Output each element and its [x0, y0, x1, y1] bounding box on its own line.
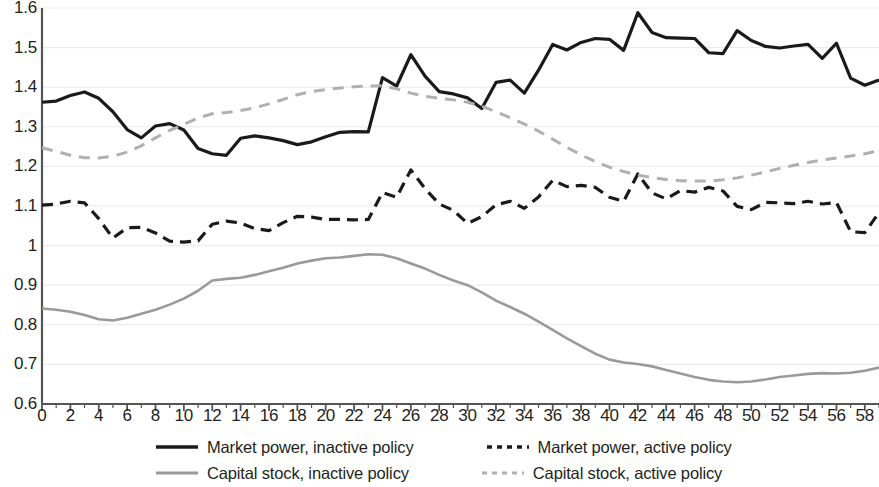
x-tick-label: 34 [511, 406, 537, 426]
y-tick-label: 0.7 [3, 355, 37, 372]
x-axis-tick-labels: 0246810121416182022242628303234363840424… [0, 406, 879, 430]
x-tick-label: 36 [540, 406, 566, 426]
legend-item-market-power-active: Market power, active policy [486, 434, 732, 460]
x-tick-label: 10 [171, 406, 197, 426]
x-tick-label: 48 [710, 406, 736, 426]
legend-item-capital-stock-inactive: Capital stock, inactive policy [155, 460, 409, 486]
x-tick-label: 22 [341, 406, 367, 426]
legend-row-1: Market power, inactive policy Market pow… [0, 434, 879, 460]
x-tick-label: 40 [596, 406, 622, 426]
legend-label: Capital stock, inactive policy [207, 464, 409, 483]
series-line-0 [42, 13, 879, 156]
y-tick-label: 0.9 [3, 276, 37, 293]
y-tick-label: 1 [3, 237, 37, 254]
x-tick-label: 2 [57, 406, 83, 426]
x-tick-label: 46 [682, 406, 708, 426]
dashed-grey-line-swatch [481, 466, 525, 480]
x-tick-label: 58 [852, 406, 878, 426]
y-axis-tick-labels: 1.61.51.41.31.21.110.90.80.70.6 [0, 0, 37, 425]
legend-row-2: Capital stock, inactive policy Capital s… [0, 460, 879, 486]
x-tick-label: 16 [256, 406, 282, 426]
series-line-2 [42, 254, 879, 382]
y-tick-label: 1.1 [3, 197, 37, 214]
x-tick-label: 30 [455, 406, 481, 426]
x-tick-label: 54 [795, 406, 821, 426]
y-tick-label: 1.3 [3, 118, 37, 135]
legend-label: Market power, inactive policy [207, 438, 414, 457]
chart-canvas [0, 0, 879, 425]
solid-black-line-swatch [155, 440, 199, 454]
y-tick-label: 1.2 [3, 157, 37, 174]
x-tick-label: 12 [199, 406, 225, 426]
solid-grey-line-swatch [155, 466, 199, 480]
legend-label: Market power, active policy [538, 438, 732, 457]
x-tick-label: 28 [426, 406, 452, 426]
x-tick-label: 4 [86, 406, 112, 426]
x-tick-label: 56 [823, 406, 849, 426]
x-tick-label: 6 [114, 406, 140, 426]
y-tick-label: 1.5 [3, 39, 37, 56]
x-tick-label: 24 [369, 406, 395, 426]
x-tick-label: 50 [738, 406, 764, 426]
plot-area: 1.61.51.41.31.21.110.90.80.70.6 [0, 0, 879, 425]
x-tick-label: 0 [29, 406, 55, 426]
x-tick-label: 42 [625, 406, 651, 426]
x-tick-label: 8 [142, 406, 168, 426]
x-tick-label: 14 [228, 406, 254, 426]
dashed-black-line-swatch [486, 440, 530, 454]
y-tick-label: 0.8 [3, 316, 37, 333]
y-tick-label: 1.4 [3, 78, 37, 95]
x-tick-label: 44 [653, 406, 679, 426]
line-chart-figure: 1.61.51.41.31.21.110.90.80.70.6 02468101… [0, 0, 879, 487]
y-tick-label: 1.6 [3, 0, 37, 16]
x-tick-label: 26 [398, 406, 424, 426]
x-tick-label: 20 [313, 406, 339, 426]
x-tick-label: 38 [568, 406, 594, 426]
chart-legend: Market power, inactive policy Market pow… [0, 432, 879, 487]
x-tick-label: 52 [767, 406, 793, 426]
legend-label: Capital stock, active policy [533, 464, 722, 483]
x-tick-label: 32 [483, 406, 509, 426]
x-tick-label: 18 [284, 406, 310, 426]
legend-item-capital-stock-active: Capital stock, active policy [481, 460, 722, 486]
legend-item-market-power-inactive: Market power, inactive policy [155, 434, 414, 460]
